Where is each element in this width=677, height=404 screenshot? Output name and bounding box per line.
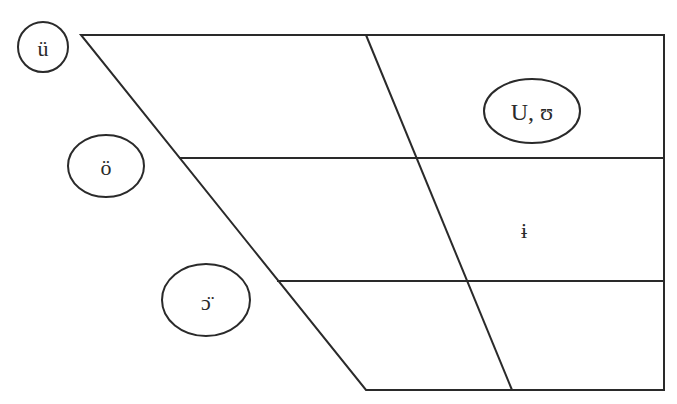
symbol-label: U, ʊ — [511, 99, 554, 125]
symbol-u-upsilon: U, ʊ — [484, 79, 580, 143]
symbol-open-o-umlaut: ɔ̈ — [162, 264, 250, 336]
symbol-u-umlaut: ü — [18, 22, 68, 72]
symbol-barred-i: ɨ — [521, 218, 527, 243]
vowel-chart: ü ö ɔ̈ U, ʊ ɨ — [0, 0, 677, 404]
symbol-o-umlaut: ö — [68, 135, 144, 197]
symbol-label: ö — [101, 155, 112, 180]
symbol-label: ü — [38, 36, 49, 61]
center-line — [366, 35, 512, 390]
symbol-label: ɔ̈ — [201, 290, 214, 315]
chart-outline — [81, 35, 664, 390]
